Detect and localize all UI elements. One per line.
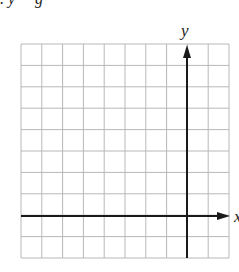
y-axis-arrowhead-icon bbox=[183, 45, 191, 58]
x-axis-label: x bbox=[233, 207, 239, 226]
grid-lines bbox=[21, 44, 229, 258]
y-axis: y bbox=[179, 21, 191, 258]
x-axis-arrowhead-icon bbox=[217, 212, 230, 220]
y-axis-label: y bbox=[179, 21, 189, 40]
coordinate-grid: y x bbox=[0, 0, 239, 272]
x-axis: x bbox=[21, 207, 239, 226]
